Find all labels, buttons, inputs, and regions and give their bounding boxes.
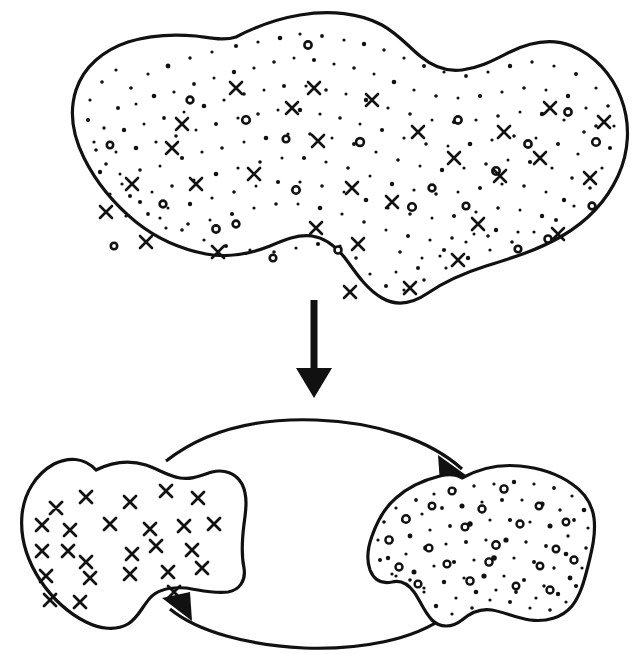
right-to-left-arrow-shaft — [170, 609, 446, 648]
left-to-right-arrow-shaft — [166, 420, 462, 469]
dot-population-region — [368, 466, 595, 627]
separation-arrow — [296, 300, 332, 398]
diagram-canvas — [0, 0, 639, 654]
mixed-population-outline — [73, 13, 628, 303]
figure-root — [0, 0, 639, 654]
mixed-population-region — [73, 13, 628, 303]
right-to-left-exchange-arrow — [162, 592, 446, 648]
x-population-outline — [22, 459, 246, 628]
dot-population-outline — [368, 466, 595, 627]
separation-arrow-head — [296, 368, 332, 398]
x-population-region — [22, 459, 246, 628]
